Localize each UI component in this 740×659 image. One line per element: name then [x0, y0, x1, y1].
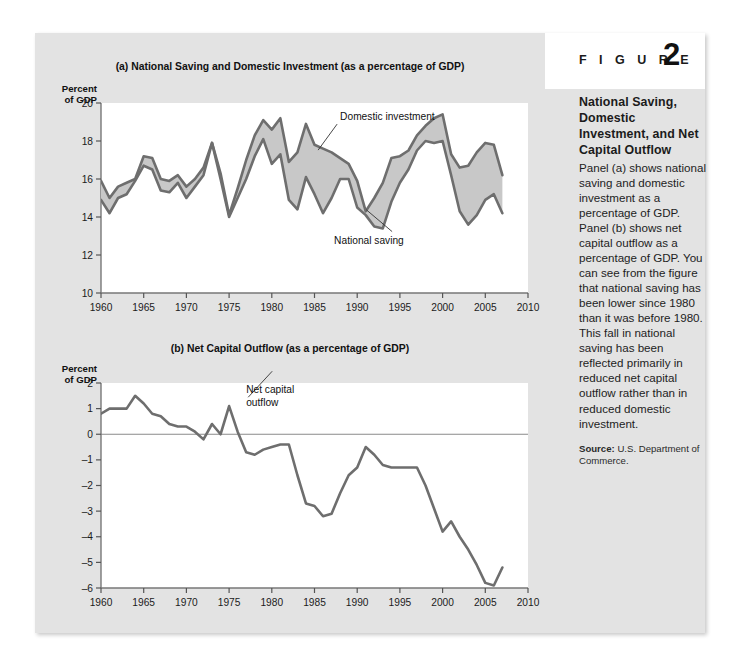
figure-number: 2 [663, 39, 680, 70]
caption-column: National Saving, Domestic Investment, an… [579, 95, 707, 467]
figure-number-band: F I G U R E 2 [545, 33, 705, 89]
x-tick-label: 1960 [90, 597, 113, 608]
x-tick-label: 2005 [474, 302, 497, 313]
x-tick-label: 1995 [389, 597, 412, 608]
y-tick-label: 18 [82, 136, 94, 147]
x-tick-label: 2000 [431, 597, 454, 608]
y-tick-label: 2 [87, 378, 93, 389]
x-tick-label: 1980 [260, 302, 283, 313]
caption-title: National Saving, Domestic Investment, an… [579, 95, 707, 159]
panel-a-title: (a) National Saving and Domestic Investm… [35, 61, 545, 72]
x-tick-label: 1995 [389, 302, 412, 313]
y-tick-label: –1 [82, 454, 94, 465]
y-tick-label: –6 [82, 583, 94, 594]
x-tick-label: 1965 [132, 302, 155, 313]
figure-page: F I G U R E 2 National Saving, Domestic … [0, 0, 740, 659]
x-tick-label: 1990 [346, 597, 369, 608]
x-tick-label: 2010 [517, 302, 540, 313]
y-tick-label: 1 [87, 403, 93, 414]
x-tick-label: 1975 [218, 302, 241, 313]
y-tick-label: –4 [82, 531, 94, 542]
x-tick-label: 1965 [132, 597, 155, 608]
y-tick-label: 10 [82, 288, 94, 299]
figure-sheet: F I G U R E 2 National Saving, Domestic … [35, 33, 705, 633]
y-tick-label: 20 [82, 98, 94, 109]
x-tick-label: 1970 [175, 597, 198, 608]
x-tick-label: 2010 [517, 597, 540, 608]
x-tick-label: 1975 [218, 597, 241, 608]
y-tick-label: 0 [87, 429, 93, 440]
y-tick-label: 16 [82, 174, 94, 185]
x-tick-label: 2000 [431, 302, 454, 313]
panel-b-title: (b) Net Capital Outflow (as a percentage… [35, 343, 545, 354]
caption-source: Source: U.S. Department of Commerce. [579, 443, 707, 468]
y-tick-label: –3 [82, 506, 94, 517]
x-tick-label: 2005 [474, 597, 497, 608]
y-tick-label: 12 [82, 250, 94, 261]
panel-b-plot: 210–1–2–3–4–5–61960196519701975198019851… [35, 361, 545, 631]
x-tick-label: 1970 [175, 302, 198, 313]
x-tick-label: 1980 [260, 597, 283, 608]
y-tick-label: 14 [82, 212, 94, 223]
x-tick-label: 1985 [303, 302, 326, 313]
x-tick-label: 1990 [346, 302, 369, 313]
caption-body: Panel (a) shows national saving and dome… [579, 160, 707, 431]
y-tick-label: –2 [82, 480, 94, 491]
x-tick-label: 1960 [90, 302, 113, 313]
series-annotation-label: National saving [334, 235, 404, 246]
series-annotation-label: Domestic investment [340, 111, 435, 122]
panel-a-plot: 1012141618201960196519701975198019851990… [35, 81, 545, 321]
source-label: Source: [579, 443, 615, 454]
y-tick-label: –5 [82, 557, 94, 568]
x-tick-label: 1985 [303, 597, 326, 608]
